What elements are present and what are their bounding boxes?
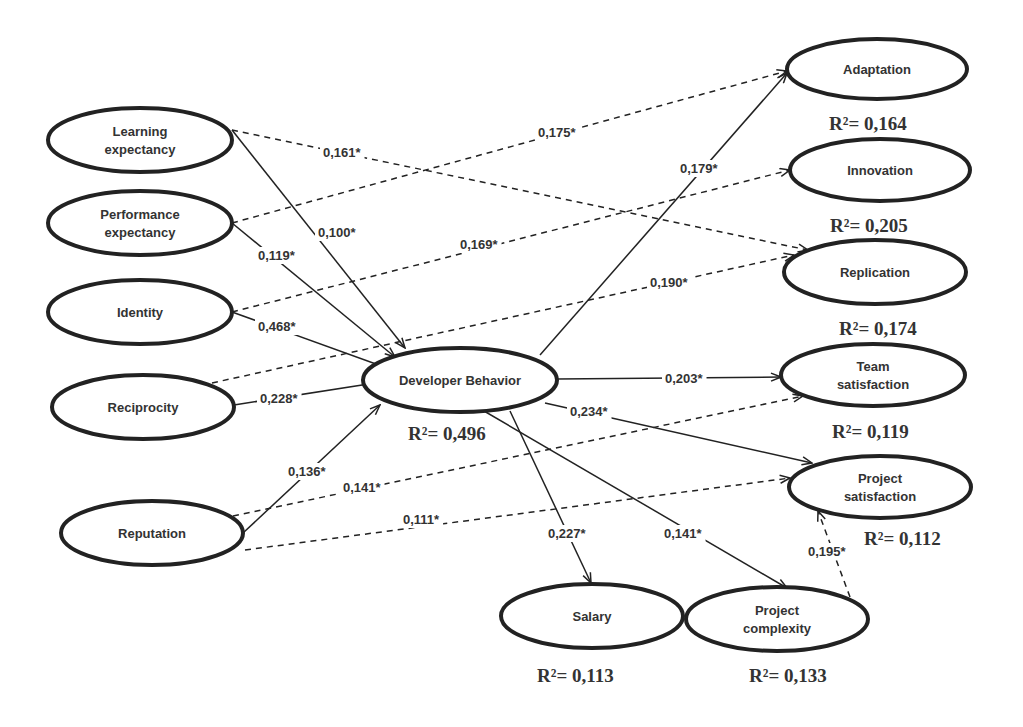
r-squared-label: R²= 0,112	[864, 528, 941, 549]
construct-label: Team	[857, 359, 890, 374]
path-coefficient-label: 0,169*	[460, 237, 499, 252]
construct-node-learning: Learningexpectancy	[48, 108, 232, 172]
sem-path-diagram: LearningexpectancyPerformanceexpectancyI…	[0, 0, 1023, 727]
path-performance-to-adaptation	[232, 71, 787, 223]
construct-node-adaptation: AdaptationR²= 0,164	[787, 39, 967, 134]
path-coefficient-label: 0,111*	[403, 512, 440, 527]
path-coefficient-label: 0,227*	[548, 526, 587, 541]
construct-label: Adaptation	[843, 62, 911, 77]
construct-node-salary: SalaryR²= 0,113	[501, 584, 683, 686]
path-coefficient-label: 0,195*	[808, 544, 847, 559]
construct-label: Project	[858, 471, 903, 486]
path-coefficient-label: 0,203*	[665, 371, 704, 386]
r-squared-label: R²= 0,164	[829, 113, 907, 134]
construct-node-reciprocity: Reciprocity	[52, 375, 234, 439]
path-coefficient-label: 0,161*	[323, 145, 362, 160]
construct-label: Project	[755, 603, 800, 618]
construct-label: satisfaction	[837, 377, 909, 392]
path-reputation-to-team	[233, 396, 803, 516]
path-coefficient-label: 0,190*	[650, 275, 689, 290]
path-performance-to-developer	[232, 223, 395, 357]
ellipse-shape	[781, 344, 965, 406]
construct-node-complexity: ProjectcomplexityR²= 0,133	[686, 587, 868, 686]
construct-label: Replication	[840, 265, 910, 280]
construct-node-developer: Developer BehaviorR²= 0,496	[363, 348, 557, 444]
path-developer-to-adaptation	[540, 73, 787, 355]
construct-label: expectancy	[105, 142, 177, 157]
path-coefficient-label: 0,175*	[538, 125, 577, 140]
path-coefficient-label: 0,136*	[288, 464, 327, 479]
path-reputation-to-projsat	[245, 478, 790, 550]
r-squared-label: R²= 0,119	[832, 421, 909, 442]
construct-label: complexity	[743, 621, 812, 636]
path-coefficient-label: 0,228*	[260, 391, 299, 406]
path-coefficient-label: 0,141*	[343, 480, 382, 495]
ellipse-shape	[686, 587, 868, 651]
construct-label: Identity	[117, 305, 164, 320]
construct-label: Salary	[572, 609, 612, 624]
path-developer-to-complexity	[484, 411, 787, 588]
construct-label: Performance	[100, 207, 179, 222]
path-coefficient-label: 0,468*	[258, 319, 297, 334]
path-coefficient-label: 0,179*	[680, 161, 719, 176]
r-squared-label: R²= 0,174	[839, 318, 917, 339]
path-coefficient-label: 0,141*	[664, 526, 703, 541]
nodes-layer: LearningexpectancyPerformanceexpectancyI…	[48, 39, 971, 686]
construct-node-projsat: ProjectsatisfactionR²= 0,112	[789, 456, 971, 549]
construct-label: Learning	[113, 124, 168, 139]
construct-label: Reputation	[118, 526, 186, 541]
construct-label: expectancy	[105, 225, 177, 240]
construct-node-reputation: Reputation	[61, 501, 243, 565]
construct-label: Reciprocity	[108, 400, 180, 415]
construct-node-innovation: InnovationR²= 0,205	[790, 139, 970, 236]
r-squared-label: R²= 0,496	[408, 423, 486, 444]
path-coefficient-label: 0,100*	[318, 225, 357, 240]
ellipse-shape	[789, 456, 971, 518]
path-reciprocity-to-developer	[234, 383, 375, 405]
construct-label: satisfaction	[844, 489, 916, 504]
ellipse-shape	[48, 108, 232, 172]
ellipse-shape	[48, 191, 232, 255]
construct-node-identity: Identity	[48, 280, 232, 344]
path-coefficient-label: 0,234*	[570, 404, 609, 419]
path-developer-to-salary	[510, 411, 591, 583]
path-coefficient-label: 0,119*	[258, 248, 296, 263]
r-squared-label: R²= 0,113	[537, 665, 614, 686]
r-squared-label: R²= 0,205	[830, 215, 908, 236]
construct-label: Innovation	[847, 163, 913, 178]
construct-node-performance: Performanceexpectancy	[48, 191, 232, 255]
construct-node-team: TeamsatisfactionR²= 0,119	[781, 344, 965, 442]
r-squared-label: R²= 0,133	[749, 665, 827, 686]
construct-node-replication: ReplicationR²= 0,174	[784, 240, 966, 339]
edges-layer	[212, 71, 850, 597]
construct-label: Developer Behavior	[399, 373, 521, 388]
